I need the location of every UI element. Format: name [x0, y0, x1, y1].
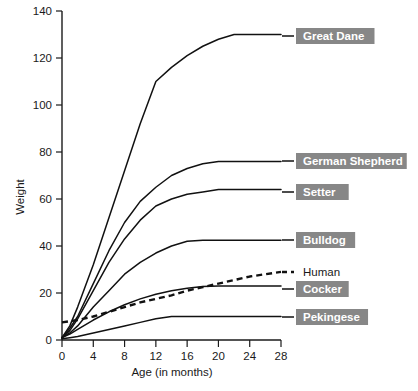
y-tick-label: 20 [39, 287, 52, 299]
x-tick-label: 16 [181, 350, 194, 362]
legend-layer: Great DaneGerman ShepherdSetterBulldogHu… [282, 28, 407, 325]
x-tick-label: 4 [90, 350, 97, 362]
x-axis-title: Age (in months) [131, 366, 212, 378]
x-tick-label: 8 [121, 350, 127, 362]
y-tick-label: 60 [39, 193, 52, 205]
x-tick-label: 0 [59, 350, 65, 362]
series-line-great-dane [62, 35, 281, 338]
chart-canvas: 020406080100120140 0481216202428 Weight … [0, 0, 418, 391]
x-tick-label: 24 [243, 350, 256, 362]
y-axis-title: Weight [14, 178, 26, 214]
x-tick-label: 28 [275, 350, 288, 362]
growth-chart: 020406080100120140 0481216202428 Weight … [0, 0, 418, 391]
legend-label-pekingese: Pekingese [303, 311, 360, 323]
y-tick-label: 120 [33, 52, 52, 64]
y-tick-label: 100 [33, 99, 52, 111]
legend-label-cocker: Cocker [303, 283, 343, 295]
y-tick-label: 140 [33, 5, 52, 17]
legend-label-bulldog: Bulldog [303, 234, 346, 246]
x-axis-ticks: 0481216202428 [59, 340, 288, 362]
legend-label-german-shepherd: German Shepherd [303, 155, 403, 167]
y-tick-label: 80 [39, 146, 52, 158]
legend-label-great-dane: Great Dane [303, 30, 364, 42]
series-layer [62, 35, 281, 339]
x-tick-label: 12 [149, 350, 162, 362]
series-line-cocker [62, 286, 281, 338]
legend-label-setter: Setter [303, 186, 336, 198]
y-axis-ticks: 020406080100120140 [33, 5, 62, 346]
series-line-german-shepherd [62, 161, 281, 337]
x-tick-label: 20 [212, 350, 225, 362]
y-tick-label: 0 [46, 334, 52, 346]
y-tick-label: 40 [39, 240, 52, 252]
legend-label-human: Human [303, 266, 340, 278]
